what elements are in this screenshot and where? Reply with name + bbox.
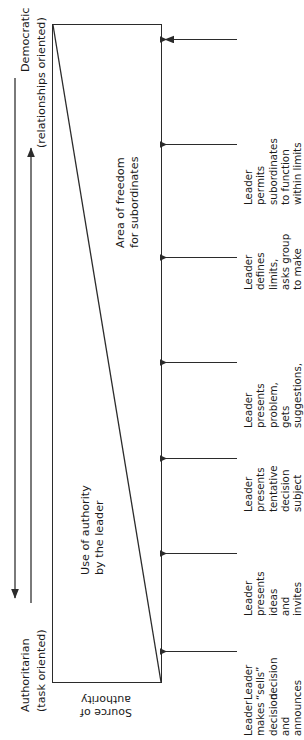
step-1-line-1: Leader: [242, 680, 254, 736]
step-label-step-3: Leader presents ideas and invites questi…: [242, 566, 304, 616]
step-label-step-5: Leader presents problem, gets suggestion…: [242, 363, 304, 428]
pointer-arrow-step-7: [160, 35, 238, 44]
pointer-arrow-step-1: [160, 647, 238, 656]
region-label-use-of-authority: Use of authority by the leader: [79, 485, 107, 575]
step-7-line-3: subordinates: [267, 138, 279, 205]
pointer-arrow-step-3: [160, 454, 238, 463]
step-7-line-4: to function: [279, 138, 291, 205]
axis-label-relationships-oriented: (relationships oriented): [35, 17, 48, 148]
source-of-authority-line2: authority: [46, 692, 166, 705]
step-7-line-1: Leader: [242, 138, 254, 205]
step-1-line-4: and: [279, 680, 291, 736]
pointer-arrow-step-5: [160, 253, 238, 262]
step-4-line-1: Leader: [242, 460, 254, 512]
region-label-use-of-authority-line2: by the leader: [93, 485, 107, 575]
step-1-line-2: makes: [254, 680, 266, 736]
pointer-arrow-step-4: [160, 358, 238, 367]
step-5-line-2: presents: [254, 363, 266, 428]
leadership-style-axis: Democratic (relationships oriented) Auth…: [0, 0, 52, 740]
axis-label-democratic: Democratic: [19, 8, 32, 73]
continuum-box: [52, 24, 162, 683]
step-6-line-4: asks group: [279, 234, 291, 290]
region-label-use-of-authority-line1: Use of authority: [79, 485, 93, 575]
step-5-line-4: gets: [279, 363, 291, 428]
region-label-area-of-freedom: Area of freedom for subordinates: [114, 157, 142, 248]
step-3-line-5: invites: [291, 566, 303, 616]
step-3-line-4: and: [279, 566, 291, 616]
step-6-line-5: to make: [291, 234, 303, 290]
step-5-line-3: problem,: [267, 363, 279, 428]
step-3-line-2: presents: [254, 566, 266, 616]
source-of-authority-label: Source of authority: [46, 692, 166, 718]
step-7-line-2: permits: [254, 138, 266, 205]
step-label-step-1: Leader makes decision and announces it: [242, 680, 304, 736]
step-5-line-1: Leader: [242, 363, 254, 428]
step-label-step-6: Leader defines limits, asks group to mak…: [242, 234, 304, 290]
step-3-line-1: Leader: [242, 566, 254, 616]
step-6-line-1: Leader: [242, 234, 254, 290]
step-5-line-5: suggestions,: [291, 363, 303, 428]
pointer-arrow-step-2: [160, 549, 238, 558]
axis-label-authoritarian: Authoritarian: [19, 638, 32, 712]
step-7-line-5: within limits: [291, 138, 303, 205]
step-label-step-2: x: [242, 611, 254, 617]
region-label-area-of-freedom-line2: for subordinates: [128, 157, 142, 248]
region-label-area-of-freedom-line1: Area of freedom: [114, 157, 128, 248]
step-1-line-5: announces: [291, 680, 303, 736]
step-1-line-3: decision: [267, 680, 279, 736]
pointer-arrow-step-6: [160, 140, 238, 149]
step-label-step-4: Leader presents tentative decision subje…: [242, 460, 304, 512]
step-3-line-3: ideas: [267, 566, 279, 616]
step-6-line-3: limits,: [267, 234, 279, 290]
step-label-step-7: Leader permits subordinates to function …: [242, 138, 304, 205]
step-4-line-3: tentative: [267, 460, 279, 512]
step-4-line-5: subject: [291, 460, 303, 512]
source-of-authority-line1: Source of: [46, 705, 166, 718]
step-4-line-4: decision: [279, 460, 291, 512]
step-4-line-2: presents: [254, 460, 266, 512]
leadership-continuum-diagram: Democratic (relationships oriented) Auth…: [0, 0, 304, 740]
step-6-line-2: defines: [254, 234, 266, 290]
